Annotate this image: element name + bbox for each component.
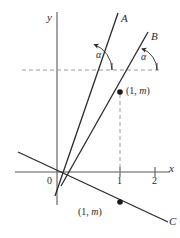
y-axis-label: y: [47, 12, 52, 23]
point-label-on-line-b: (1, m): [126, 86, 150, 96]
point-label-c-open: (1,: [78, 206, 91, 217]
line-b-label: B: [151, 31, 158, 42]
x-tick-label-2: 2: [152, 176, 157, 186]
point-label-b-close: ): [147, 85, 150, 96]
line-c-label: C: [169, 216, 176, 227]
point-label-b-variable: m: [139, 85, 146, 96]
point-label-c-close: ): [99, 206, 102, 217]
origin-label: 0: [47, 176, 52, 186]
x-axis-label: x: [169, 163, 174, 174]
x-tick-label-1: 1: [117, 176, 122, 186]
geometry-figure: y x 0 1 2 A B C α α (1, m) (1, m): [0, 0, 180, 238]
angle-arcs: [94, 45, 157, 71]
point-marker-on-line-b: [117, 89, 123, 95]
point-label-b-open: (1,: [126, 85, 139, 96]
point-marker-on-line-c: [117, 199, 123, 205]
line-b: [61, 32, 148, 186]
axes-group: [15, 12, 170, 205]
alpha-label-line-b: α: [141, 52, 146, 62]
point-label-c-variable: m: [91, 206, 98, 217]
alpha-label-line-a: α: [96, 50, 101, 60]
point-label-on-line-c: (1, m): [78, 207, 102, 217]
line-a-label: A: [121, 13, 128, 24]
line-a: [55, 13, 118, 196]
